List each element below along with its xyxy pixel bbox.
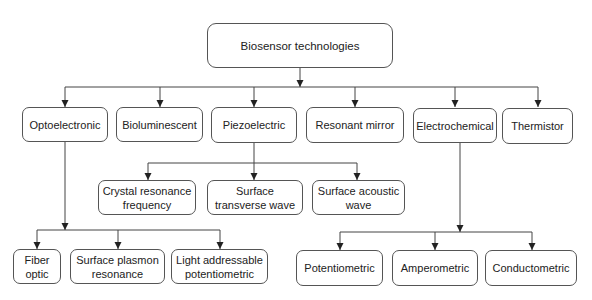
node-surface-acoustic-wave: Surface acoustic wave xyxy=(312,180,405,215)
node-resonant-mirror: Resonant mirror xyxy=(306,107,404,143)
node-light-addressable-potentiometric: Light addressable potentiometric xyxy=(171,249,268,284)
node-crystal-resonance-frequency: Crystal resonance frequency xyxy=(98,180,196,215)
node-electrochemical: Electrochemical xyxy=(413,108,497,143)
node-piezoelectric: Piezoelectric xyxy=(211,107,297,143)
node-surface-transverse-wave: Surface transverse wave xyxy=(207,180,303,215)
node-root: Biosensor technologies xyxy=(207,23,393,68)
node-fiber-optic: Fiber optic xyxy=(13,249,61,284)
node-potentiometric: Potentiometric xyxy=(296,250,383,286)
node-optoelectronic: Optoelectronic xyxy=(22,107,108,142)
biosensor-technologies-diagram: Biosensor technologies Optoelectronic Bi… xyxy=(0,0,592,300)
node-thermistor: Thermistor xyxy=(502,108,573,144)
node-conductometric: Conductometric xyxy=(485,250,577,286)
node-surface-plasmon-resonance: Surface plasmon resonance xyxy=(70,249,165,284)
node-bioluminescent: Bioluminescent xyxy=(116,107,203,142)
node-amperometric: Amperometric xyxy=(392,250,478,286)
